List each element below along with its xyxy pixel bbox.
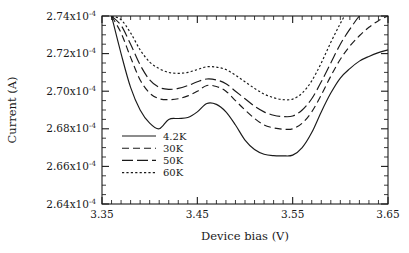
legend-label-30K: 30K	[163, 143, 184, 154]
y-axis-title: Current (A)	[5, 77, 19, 144]
y-tick-label: 2.64x10-4	[46, 197, 96, 210]
data-series-4-2K	[112, 16, 388, 156]
x-tick-label: 3.65	[376, 208, 399, 220]
line-chart: 3.353.453.553.65 2.64x10-42.66x10-42.68x…	[0, 0, 409, 253]
data-curves	[112, 0, 388, 156]
y-tick-label: 2.72x10-4	[46, 46, 96, 59]
y-tick-label: 2.66x10-4	[46, 159, 96, 172]
y-tick-label: 2.70x10-4	[46, 84, 96, 97]
y-axis-tick-labels: 2.64x10-42.66x10-42.68x10-42.70x10-42.72…	[46, 9, 96, 210]
x-tick-label: 3.45	[186, 208, 209, 220]
data-series-50K	[112, 0, 388, 117]
y-tick-label: 2.74x10-4	[46, 9, 96, 22]
legend-label-60K: 60K	[163, 167, 184, 178]
legend-label-4-2K: 4.2K	[163, 131, 187, 142]
legend: 4.2K30K50K60K	[122, 131, 187, 179]
data-series-30K	[112, 16, 388, 129]
x-tick-label: 3.35	[90, 208, 113, 220]
legend-label-50K: 50K	[163, 155, 184, 166]
chart-figure: 3.353.453.553.65 2.64x10-42.66x10-42.68x…	[0, 0, 409, 253]
x-axis-ticks	[102, 16, 388, 204]
y-axis-ticks	[102, 16, 388, 204]
x-axis-title: Device bias (V)	[201, 229, 289, 243]
plot-frame	[102, 16, 388, 204]
x-axis-tick-labels: 3.353.453.553.65	[90, 208, 399, 220]
x-tick-label: 3.55	[281, 208, 304, 220]
y-tick-label: 2.68x10-4	[46, 121, 96, 134]
